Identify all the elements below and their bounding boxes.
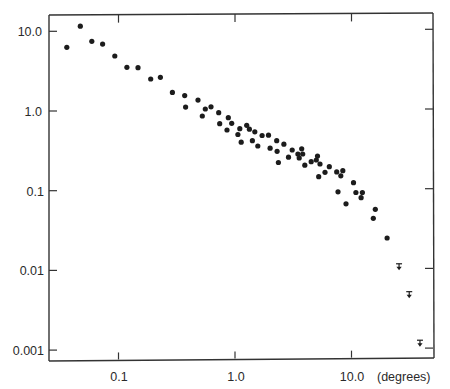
data-point [266, 133, 271, 138]
data-point [124, 65, 129, 70]
data-point [250, 138, 255, 143]
data-point [158, 75, 163, 80]
data-points [64, 24, 390, 241]
data-point [237, 126, 242, 131]
data-point [268, 146, 273, 151]
data-point [182, 93, 187, 98]
data-point [170, 90, 175, 95]
data-point [335, 189, 340, 194]
data-point [275, 149, 280, 154]
bottom-axis [49, 358, 434, 361]
data-point [316, 174, 321, 179]
data-point [340, 168, 345, 173]
data-point [247, 127, 252, 132]
data-point [281, 142, 286, 147]
data-point [148, 76, 153, 81]
data-point [255, 143, 260, 148]
x-tick-label-1: 1.0 [227, 370, 244, 384]
data-point [302, 163, 307, 168]
data-point [385, 235, 390, 240]
data-point [203, 106, 208, 111]
data-point [224, 127, 229, 132]
log-log-scatter-chart: 10.0 1.0 0.1 0.01 0.001 0.1 1.0 10.0 (de… [0, 0, 450, 389]
data-point [353, 190, 358, 195]
top-axis [49, 13, 433, 15]
upper-limit-markers [396, 264, 423, 347]
upper-limit-arrow-icon [396, 264, 402, 271]
data-point [226, 115, 231, 120]
data-point [317, 161, 322, 166]
data-point [274, 138, 279, 143]
data-point [299, 146, 304, 151]
data-point [322, 170, 327, 175]
data-point [112, 53, 117, 58]
data-point [309, 159, 314, 164]
data-point [359, 195, 364, 200]
data-point [327, 164, 332, 169]
right-axis [433, 13, 434, 358]
y-tick-label-1: 1.0 [25, 105, 42, 119]
data-point [216, 110, 221, 115]
data-point [290, 147, 295, 152]
data-point [351, 180, 356, 185]
data-point [183, 105, 188, 110]
data-point [373, 207, 378, 212]
plot-frame [49, 13, 434, 361]
axis-ticks [49, 13, 433, 359]
data-point [208, 104, 213, 109]
x-axis-labels: 0.1 1.0 10.0 (degrees) [110, 370, 430, 384]
data-point [200, 113, 205, 118]
data-point [135, 65, 140, 70]
x-tick-label-0.1: 0.1 [110, 370, 127, 384]
data-point [100, 42, 105, 47]
data-point [315, 154, 320, 159]
y-axis-labels: 10.0 1.0 0.1 0.01 0.001 [13, 25, 44, 358]
data-point [371, 216, 376, 221]
data-point [260, 133, 265, 138]
data-point [276, 160, 281, 165]
data-point [297, 155, 302, 160]
y-tick-label-0.01: 0.01 [20, 264, 44, 278]
data-point [229, 121, 234, 126]
data-point [235, 132, 240, 137]
data-point [195, 98, 200, 103]
upper-limit-arrow-icon [406, 292, 412, 299]
data-point [78, 24, 83, 29]
x-tick-label-10: 10.0 [340, 370, 364, 384]
y-tick-label-10: 10.0 [18, 25, 42, 39]
data-point [338, 173, 343, 178]
data-point [252, 129, 257, 134]
upper-limit-arrow-icon [417, 340, 423, 347]
x-axis-unit-label: (degrees) [377, 370, 431, 384]
y-tick-label-0.001: 0.001 [13, 344, 44, 358]
data-point [343, 201, 348, 206]
data-point [300, 151, 305, 156]
data-point [286, 155, 291, 160]
data-point [89, 39, 94, 44]
data-point [334, 169, 339, 174]
data-point [217, 121, 222, 126]
data-point [64, 45, 69, 50]
data-point [239, 140, 244, 145]
y-tick-label-0.1: 0.1 [27, 185, 44, 199]
data-point [360, 190, 365, 195]
